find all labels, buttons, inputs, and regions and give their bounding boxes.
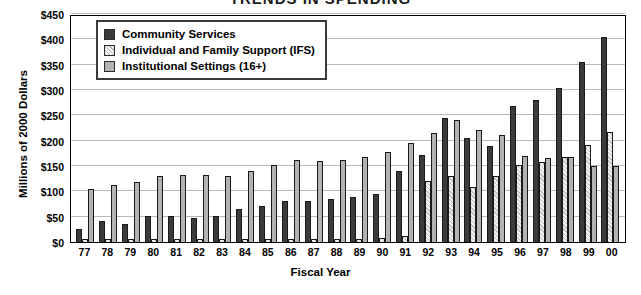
- bar-group: [462, 14, 485, 242]
- bar-cs: [213, 216, 219, 242]
- x-tick-label: 96: [509, 246, 532, 258]
- bar-group: [348, 14, 371, 242]
- bar-cs: [168, 216, 174, 242]
- bar-group: [508, 14, 531, 242]
- bar-cs: [236, 209, 242, 242]
- bar-inst: [111, 185, 117, 242]
- legend-swatch-inst: [104, 61, 115, 72]
- bar-inst: [294, 160, 300, 242]
- x-tick-label: 88: [325, 246, 348, 258]
- chart-legend: Community ServicesIndividual and Family …: [96, 20, 327, 80]
- legend-item: Community Services: [104, 26, 315, 42]
- bar-group: [394, 14, 417, 242]
- chart-title: TRENDS IN SPENDING: [0, 0, 641, 7]
- bar-cs: [282, 201, 288, 242]
- bar-inst: [271, 165, 277, 242]
- bar-inst: [568, 157, 574, 242]
- x-tick-label: 99: [577, 246, 600, 258]
- bar-inst: [362, 157, 368, 242]
- y-tick-label: $50: [4, 212, 64, 224]
- bar-group: [416, 14, 439, 242]
- bar-inst: [545, 158, 551, 242]
- bar-inst: [454, 120, 460, 242]
- bar-cs: [259, 206, 265, 242]
- y-tick-label: $200: [4, 136, 64, 148]
- bar-group: [371, 14, 394, 242]
- bar-inst: [157, 176, 163, 242]
- x-tick-label: 94: [463, 246, 486, 258]
- x-tick-label: 98: [554, 246, 577, 258]
- x-tick-label: 93: [440, 246, 463, 258]
- x-tick-label: 84: [233, 246, 256, 258]
- bar-cs: [145, 216, 151, 242]
- x-axis-ticks: 7778798081828384858687888990919293949596…: [70, 246, 626, 258]
- x-tick-label: 77: [73, 246, 96, 258]
- y-tick-label: $100: [4, 186, 64, 198]
- y-tick-label: $450: [4, 9, 64, 21]
- bar-inst: [340, 160, 346, 242]
- bar-inst: [203, 175, 209, 242]
- bar-inst: [476, 130, 482, 242]
- x-tick-label: 00: [600, 246, 623, 258]
- legend-label: Individual and Family Support (IFS): [122, 44, 315, 56]
- bar-inst: [408, 143, 414, 242]
- legend-label: Institutional Settings (16+): [122, 60, 266, 72]
- legend-item: Individual and Family Support (IFS): [104, 42, 315, 58]
- bar-cs: [350, 197, 356, 242]
- legend-swatch-ifs: [104, 45, 115, 56]
- bar-group: [485, 14, 508, 242]
- bar-group: [576, 14, 599, 242]
- bar-inst: [385, 152, 391, 242]
- bar-group: [74, 14, 97, 242]
- bar-inst: [225, 176, 231, 242]
- bar-inst: [248, 171, 254, 242]
- bar-inst: [431, 133, 437, 242]
- bar-inst: [613, 166, 619, 242]
- x-tick-label: 89: [348, 246, 371, 258]
- bar-inst: [134, 182, 140, 242]
- y-tick-label: $300: [4, 85, 64, 97]
- bar-inst: [180, 175, 186, 242]
- x-tick-label: 82: [188, 246, 211, 258]
- x-tick-label: 95: [486, 246, 509, 258]
- legend-item: Institutional Settings (16+): [104, 58, 315, 74]
- bar-group: [531, 14, 554, 242]
- bar-cs: [305, 201, 311, 242]
- x-tick-label: 85: [256, 246, 279, 258]
- bar-inst: [591, 166, 597, 242]
- legend-swatch-cs: [104, 29, 115, 40]
- bar-cs: [328, 199, 334, 242]
- bar-group: [553, 14, 576, 242]
- bar-inst: [317, 161, 323, 242]
- x-tick-label: 90: [371, 246, 394, 258]
- chart-page: TRENDS IN SPENDING Millions of 2000 Doll…: [0, 0, 641, 295]
- x-tick-label: 86: [279, 246, 302, 258]
- bar-group: [599, 14, 622, 242]
- y-tick-label: $400: [4, 34, 64, 46]
- y-tick-label: $0: [4, 237, 64, 249]
- x-tick-label: 87: [302, 246, 325, 258]
- bar-group: [439, 14, 462, 242]
- x-tick-label: 79: [119, 246, 142, 258]
- bar-inst: [88, 189, 94, 242]
- x-tick-label: 91: [394, 246, 417, 258]
- x-tick-label: 78: [96, 246, 119, 258]
- x-tick-label: 92: [417, 246, 440, 258]
- x-tick-label: 81: [165, 246, 188, 258]
- x-tick-label: 83: [211, 246, 234, 258]
- bar-cs: [396, 171, 402, 242]
- y-tick-label: $150: [4, 161, 64, 173]
- bar-group: [325, 14, 348, 242]
- x-axis-title: Fiscal Year: [0, 266, 641, 278]
- bar-inst: [499, 135, 505, 242]
- y-tick-label: $250: [4, 110, 64, 122]
- x-tick-label: 97: [531, 246, 554, 258]
- x-tick-label: 80: [142, 246, 165, 258]
- bar-cs: [373, 194, 379, 242]
- bar-inst: [522, 156, 528, 242]
- y-tick-label: $350: [4, 60, 64, 72]
- legend-label: Community Services: [122, 28, 236, 40]
- bar-cs: [191, 218, 197, 242]
